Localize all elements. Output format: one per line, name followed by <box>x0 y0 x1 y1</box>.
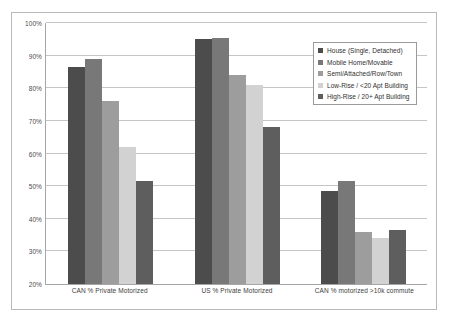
y-axis-tick-label: 40% <box>29 215 42 222</box>
bar-group <box>174 23 301 284</box>
y-axis-tick-label: 60% <box>29 150 42 157</box>
chart-legend: House (Single, Detached)Mobile Home/Mova… <box>313 42 417 105</box>
bar <box>119 147 136 284</box>
x-axis-labels: CAN % Private MotorizedUS % Private Moto… <box>46 287 428 294</box>
bar <box>338 181 355 284</box>
bar <box>136 181 153 284</box>
bar <box>389 230 406 284</box>
chart-container: 100%90%80%70%60%50%40%30%20% CAN % Priva… <box>11 12 437 310</box>
x-axis-category-label: CAN % Private Motorized <box>46 287 173 294</box>
legend-swatch-icon <box>318 83 323 88</box>
bar <box>229 75 246 284</box>
legend-swatch-icon <box>318 71 323 76</box>
bar-group <box>47 23 174 284</box>
bar <box>85 59 102 284</box>
legend-swatch-icon <box>318 48 323 53</box>
legend-label: Low-Rise / <20 Apt Building <box>327 82 408 89</box>
legend-item[interactable]: Low-Rise / <20 Apt Building <box>318 82 410 89</box>
legend-item[interactable]: House (Single, Detached) <box>318 47 410 54</box>
y-axis-tick-label: 70% <box>29 117 42 124</box>
bar <box>212 38 229 284</box>
legend-item[interactable]: High-Rise / 20+ Apt Building <box>318 93 410 100</box>
legend-swatch-icon <box>318 60 323 65</box>
y-axis-tick-label: 50% <box>29 183 42 190</box>
legend-item[interactable]: Semi/Attached/Row/Town <box>318 70 410 77</box>
y-axis-tick-label: 80% <box>29 85 42 92</box>
bar <box>321 191 338 284</box>
x-axis-category-label: US % Private Motorized <box>173 287 300 294</box>
bar <box>372 238 389 284</box>
y-axis-tick-label: 90% <box>29 52 42 59</box>
legend-item[interactable]: Mobile Home/Movable <box>318 59 410 66</box>
legend-label: High-Rise / 20+ Apt Building <box>327 93 410 100</box>
bar <box>195 39 212 284</box>
y-axis-tick-label: 20% <box>29 281 42 288</box>
bar <box>246 85 263 284</box>
legend-label: Mobile Home/Movable <box>327 59 393 66</box>
y-axis-tick-label: 100% <box>25 20 42 27</box>
bar <box>355 232 372 284</box>
bar <box>102 101 119 284</box>
bar <box>68 67 85 284</box>
x-axis-category-label: CAN % motorized >10k commute <box>301 287 428 294</box>
y-axis-tick-label: 30% <box>29 248 42 255</box>
legend-swatch-icon <box>318 94 323 99</box>
bar <box>263 127 280 284</box>
legend-label: Semi/Attached/Row/Town <box>327 70 402 77</box>
legend-label: House (Single, Detached) <box>327 47 403 54</box>
